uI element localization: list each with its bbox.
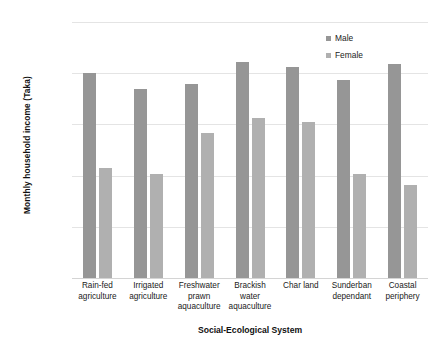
x-axis-tick-label: Sunderban dependant [326,281,377,313]
bar-groups [72,22,428,278]
bar-group [123,22,174,278]
x-axis-title: Social-Ecological System [72,325,428,335]
legend-label: Female [335,50,363,60]
x-axis-tick-label: Irrigated agriculture [123,281,174,313]
x-axis-tick-label: Char land [275,281,326,313]
bar-female [99,168,112,278]
bar-female [150,174,163,278]
bar-male [83,73,96,278]
gridline [72,278,428,279]
legend-item-male[interactable]: Male [326,33,363,43]
x-axis-tick-label: Rain-fed agriculture [72,281,123,313]
legend: MaleFemale [326,33,363,67]
legend-swatch-icon [326,53,331,58]
bar-group [275,22,326,278]
bar-group [225,22,276,278]
legend-swatch-icon [326,36,331,41]
bar-female [302,122,315,278]
bar-female [201,133,214,278]
legend-label: Male [335,33,353,43]
y-axis-title: Monthly household income (Taka) [22,30,32,260]
x-axis-tick-label: Freshwater prawn aquaculture [174,281,225,313]
bar-male [286,67,299,278]
x-axis-tick-label: Brackish water aquaculture [225,281,276,313]
bar-male [388,64,401,278]
x-axis-tick-label: Coastal periphery [377,281,428,313]
legend-item-female[interactable]: Female [326,50,363,60]
bar-male [236,62,249,278]
bar-female [353,174,366,278]
bar-group [72,22,123,278]
bar-male [134,89,147,278]
bar-male [185,84,198,278]
bar-female [252,118,265,278]
bar-group [174,22,225,278]
x-axis-tick-labels: Rain-fed agricultureIrrigated agricultur… [72,281,428,313]
bar-chart: Monthly household income (Taka) 10,0008,… [0,0,446,351]
plot-area: 10,0008,0006,0004,0002,0000 [72,22,428,278]
bar-group [377,22,428,278]
bar-male [337,80,350,278]
bar-female [404,185,417,278]
